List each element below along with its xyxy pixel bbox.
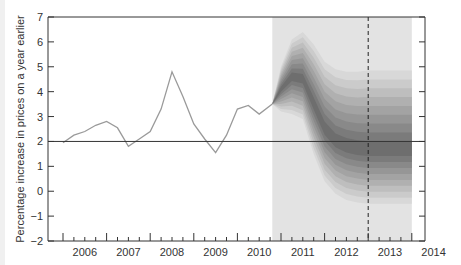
y-tick-label: 0	[37, 185, 43, 197]
y-tick-label: −1	[30, 210, 43, 222]
inflation-line	[63, 72, 272, 153]
y-tick-label: 3	[37, 111, 43, 123]
y-tick-label: −2	[30, 235, 43, 247]
y-axis-title: Percentage increase in prices on a year …	[14, 15, 26, 243]
x-tick-label: 2014	[421, 246, 445, 258]
x-tick-label: 2007	[116, 246, 140, 258]
inflation-line-path	[63, 72, 272, 153]
y-tick-label: 2	[37, 135, 43, 147]
y-tick-label: 1	[37, 160, 43, 172]
fan-chart: 76543210−1−22006200720082009201020112012…	[0, 0, 461, 265]
x-tick-label: 2006	[73, 246, 97, 258]
y-tick-label: 6	[37, 36, 43, 48]
x-tick-label: 2009	[203, 246, 227, 258]
y-tick-label: 4	[37, 86, 43, 98]
x-tick-label: 2011	[291, 246, 315, 258]
x-tick-label: 2012	[334, 246, 358, 258]
y-tick-label: 5	[37, 61, 43, 73]
y-tick-label: 7	[37, 11, 43, 23]
x-tick-label: 2008	[160, 246, 184, 258]
x-tick-label: 2010	[247, 246, 271, 258]
x-tick-label: 2013	[378, 246, 402, 258]
